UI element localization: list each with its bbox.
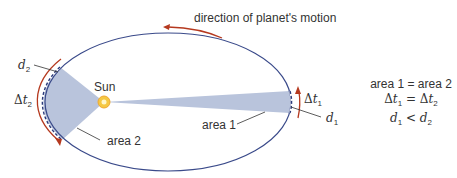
area1-leader — [237, 112, 265, 124]
d2-label: d2 — [18, 58, 30, 77]
area-1-sector — [104, 91, 292, 113]
area2-leader — [77, 128, 100, 140]
dt2-label: Δt2 — [14, 93, 32, 112]
equation-times: Δt1 = Δt2 — [362, 92, 457, 111]
equation-areas: area 1 = area 2 — [362, 77, 457, 92]
dt1-label: Δt1 — [304, 92, 322, 111]
area-2-label: area 2 — [107, 134, 141, 148]
dt1-arrow — [298, 92, 300, 118]
direction-label: direction of planet's motion — [194, 11, 336, 25]
sun-label: Sun — [94, 80, 115, 94]
equation-distances: d1 < d2 — [362, 111, 457, 130]
direction-arrow — [168, 27, 222, 38]
equations-block: area 1 = area 2 Δt1 = Δt2 d1 < d2 — [362, 77, 457, 130]
area-1-label: area 1 — [202, 118, 236, 132]
d1-label: d1 — [326, 111, 338, 130]
d2-leader — [34, 65, 58, 72]
